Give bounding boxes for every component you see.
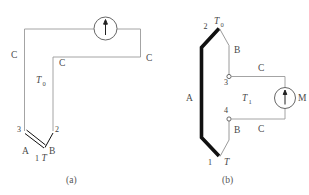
figure-root: C C C T 0 3 2 A B 1 T (a) [0,0,309,195]
panel-a-label-c-left: C [11,50,17,60]
panel-a: C C C T 0 3 2 A B 1 T (a) [11,17,152,186]
panel-b: 2 T 0 B C 3 A 4 T 1 M C B 1 T (b) [186,16,307,186]
panel-b-terminal-4 [227,117,231,121]
panel-a-conductor-a-line2 [27,130,46,145]
panel-b-conductor-b-bottom [220,119,229,157]
panel-a-label-node-3: 3 [17,125,21,134]
panel-a-label-c-inner: C [59,58,65,68]
panel-b-label-conductor-b-bottom: B [234,125,240,135]
panel-b-label-t-one-sub: 1 [249,98,252,105]
panel-a-label-t-zero-sub: 0 [43,80,46,87]
panel-b-label-node-4: 4 [224,106,228,115]
panel-a-label-temp-t: T [42,153,48,163]
panel-b-label-conductor-a: A [186,93,193,103]
panel-a-caption: (a) [66,175,77,186]
panel-a-label-node-1: 1 [35,154,39,163]
panel-b-label-t-zero: T [214,16,220,26]
thermocouple-figure: C C C T 0 3 2 A B 1 T (a) [0,0,309,195]
panel-b-label-c-bottom: C [258,124,264,134]
panel-b-conductor-a [202,29,220,157]
panel-b-label-conductor-b-top: B [234,45,240,55]
panel-b-wire-c-bottom [232,108,286,119]
panel-b-label-temp-t: T [224,157,230,167]
panel-b-label-c-top: C [258,63,264,73]
panel-a-label-conductor-b: B [49,146,55,156]
panel-b-label-node-1: 1 [208,158,212,167]
panel-b-label-t-zero-sub: 0 [221,21,224,28]
panel-b-wire-c-top [232,77,286,89]
panel-a-label-c-right: C [146,53,152,63]
panel-b-label-meter: M [298,93,307,103]
panel-b-label-node-2: 2 [204,22,208,31]
panel-b-caption: (b) [222,175,233,186]
panel-a-label-node-2: 2 [55,125,59,134]
panel-b-label-t-one: T [242,93,248,103]
panel-a-label-t-zero: T [36,75,42,85]
panel-b-label-node-3: 3 [224,78,228,87]
panel-a-label-conductor-a: A [22,146,29,156]
panel-b-conductor-b-top [220,29,230,77]
